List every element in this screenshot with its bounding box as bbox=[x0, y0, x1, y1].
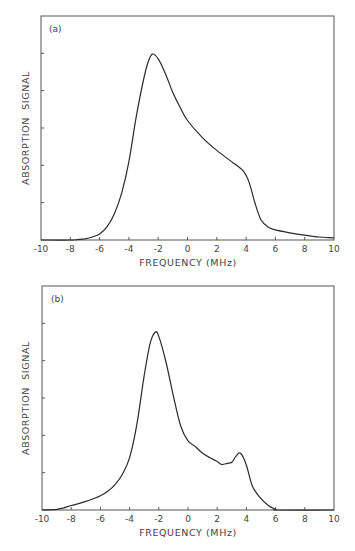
x-tick-label: 6 bbox=[273, 514, 279, 524]
chart-panel-b: -10-8-6-4-20246810 (b) FREQUENCY (MHz) A… bbox=[20, 286, 340, 538]
x-tick-label: 0 bbox=[185, 244, 191, 254]
x-tick-label: 6 bbox=[273, 244, 279, 254]
panel-label-b: (b) bbox=[51, 294, 64, 304]
x-tick-label: -2 bbox=[154, 514, 163, 524]
x-tick-label: -10 bbox=[35, 514, 50, 524]
x-tick-label: -8 bbox=[67, 514, 76, 524]
x-axis-label-a: FREQUENCY (MHz) bbox=[139, 257, 237, 268]
x-tick-label: -8 bbox=[66, 244, 75, 254]
x-tick-label: 8 bbox=[302, 244, 308, 254]
x-tick-label: -2 bbox=[154, 244, 163, 254]
x-tick-label: 10 bbox=[328, 244, 340, 254]
x-tick-labels-a: -10-8-6-4-20246810 bbox=[34, 244, 340, 254]
x-axis-label-b: FREQUENCY (MHz) bbox=[139, 527, 237, 538]
chart-panel-a: -10-8-6-4-20246810 (a) FREQUENCY (MHz) A… bbox=[20, 16, 340, 268]
axis-ticks-b bbox=[42, 323, 305, 510]
x-tick-label: 2 bbox=[214, 514, 220, 524]
axis-ticks-a bbox=[41, 53, 305, 240]
y-axis-label-b: ABSORPTION SIGNAL bbox=[20, 341, 31, 455]
x-tick-label: 0 bbox=[185, 514, 191, 524]
absorption-curve-a bbox=[41, 54, 334, 240]
absorption-curve-b bbox=[42, 332, 334, 510]
x-tick-label: 10 bbox=[328, 514, 340, 524]
x-tick-labels-b: -10-8-6-4-20246810 bbox=[35, 514, 340, 524]
plot-frame-a bbox=[41, 16, 334, 240]
x-tick-label: -6 bbox=[95, 244, 104, 254]
panel-label-a: (a) bbox=[49, 24, 62, 34]
figure: -10-8-6-4-20246810 (a) FREQUENCY (MHz) A… bbox=[0, 0, 355, 551]
x-tick-label: -10 bbox=[34, 244, 49, 254]
plot-frame-b bbox=[42, 286, 334, 510]
x-tick-label: -4 bbox=[125, 514, 134, 524]
x-tick-label: -4 bbox=[124, 244, 133, 254]
x-tick-label: 4 bbox=[243, 244, 249, 254]
x-tick-label: -6 bbox=[96, 514, 105, 524]
x-tick-label: 4 bbox=[244, 514, 250, 524]
x-tick-label: 8 bbox=[302, 514, 308, 524]
x-tick-label: 2 bbox=[214, 244, 220, 254]
y-axis-label-a: ABSORPTION SIGNAL bbox=[20, 71, 31, 185]
